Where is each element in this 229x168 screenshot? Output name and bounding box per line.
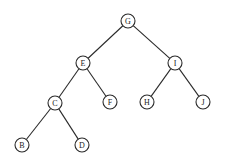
tree-node-c: C bbox=[48, 96, 62, 110]
tree-node-b: B bbox=[15, 138, 29, 152]
node-label: D bbox=[79, 141, 85, 150]
node-label: G bbox=[125, 17, 131, 26]
node-label: C bbox=[52, 99, 57, 108]
node-label: E bbox=[81, 59, 86, 68]
edge-g-i bbox=[133, 26, 170, 59]
edge-e-f bbox=[87, 69, 106, 96]
edge-c-b bbox=[26, 109, 50, 140]
edge-g-e bbox=[88, 26, 123, 58]
node-label: I bbox=[174, 59, 177, 68]
node-label: J bbox=[201, 98, 204, 107]
edge-i-j bbox=[179, 69, 199, 97]
node-label: F bbox=[108, 98, 113, 107]
tree-node-f: F bbox=[103, 95, 117, 109]
tree-edges bbox=[26, 26, 199, 140]
binary-tree-diagram: GEICFHJBD bbox=[0, 0, 229, 168]
edge-c-d bbox=[59, 109, 78, 139]
tree-node-d: D bbox=[75, 138, 89, 152]
edge-e-c bbox=[59, 69, 79, 98]
node-label: B bbox=[19, 141, 24, 150]
tree-nodes: GEICFHJBD bbox=[15, 14, 210, 152]
tree-node-g: G bbox=[121, 14, 135, 28]
tree-node-e: E bbox=[76, 56, 90, 70]
tree-node-i: I bbox=[168, 56, 182, 70]
node-label: H bbox=[144, 98, 150, 107]
tree-node-j: J bbox=[196, 95, 210, 109]
edge-i-h bbox=[151, 69, 171, 97]
tree-node-h: H bbox=[140, 95, 154, 109]
